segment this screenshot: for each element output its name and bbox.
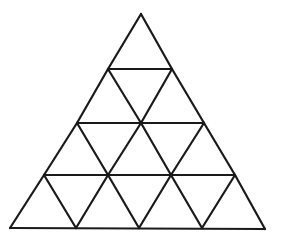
diagonal-left-line (76, 175, 108, 228)
diagonal-right-line (171, 175, 202, 228)
triangle-grid-svg (0, 0, 286, 248)
diagonal-right-line (235, 175, 265, 229)
diagonal-right-line (77, 123, 108, 175)
diagonal-right-line (204, 123, 235, 175)
triangle-diagram: triangular-grid (0, 0, 286, 248)
diagonal-right-line (141, 14, 172, 69)
diagonal-left-line (139, 175, 171, 228)
diagonal-left-line (108, 123, 141, 175)
horizontal-line (10, 228, 265, 229)
diagonal-right-line (172, 69, 204, 123)
diagonal-left-line (141, 69, 172, 123)
diagonal-right-line (108, 69, 141, 123)
diagonal-left-line (202, 175, 235, 228)
diagonal-left-line (108, 14, 141, 69)
diagonal-right-line (141, 123, 171, 175)
diagonal-left-line (77, 69, 108, 123)
diagonal-left-line (171, 123, 204, 175)
diagonal-right-line (44, 175, 76, 228)
diagonal-left-line (44, 123, 77, 175)
diagonal-right-line (108, 175, 139, 228)
diagonal-left-line (10, 175, 44, 228)
